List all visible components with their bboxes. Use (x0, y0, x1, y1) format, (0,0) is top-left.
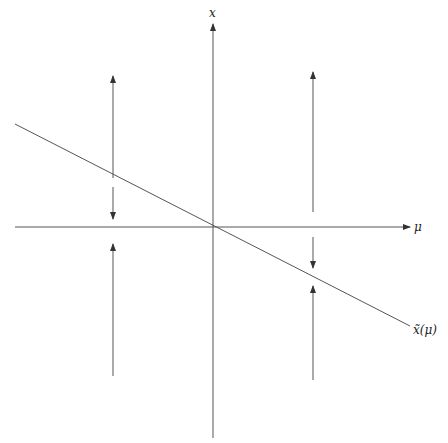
bifurcation-diagram: x μ x̃(μ) (0, 0, 448, 443)
x-axis-label: x (209, 6, 216, 20)
equilibrium-curve-label: x̃(μ) (413, 323, 437, 337)
mu-axis-label: μ (414, 220, 422, 234)
